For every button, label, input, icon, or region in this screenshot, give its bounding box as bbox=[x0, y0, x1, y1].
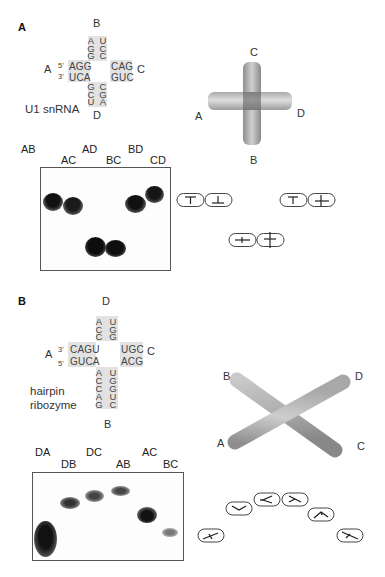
arm-label-a: A bbox=[45, 349, 52, 360]
lane-bc: BC bbox=[163, 458, 178, 470]
cross-pair-icon bbox=[228, 231, 288, 249]
model-label-c: C bbox=[250, 47, 258, 58]
right-strand-bottom: ACG bbox=[121, 357, 143, 366]
band-da bbox=[34, 521, 57, 557]
top-col-left: AGG bbox=[87, 37, 95, 60]
arm-label-c: C bbox=[147, 346, 155, 357]
arm-label-b: B bbox=[104, 419, 111, 430]
lane-dc: DC bbox=[86, 446, 102, 458]
square-cross-icon bbox=[205, 60, 335, 150]
right-strand-bottom: GUC bbox=[111, 73, 134, 82]
lane-ac: AC bbox=[142, 446, 157, 458]
lane-da: DA bbox=[35, 446, 50, 458]
band-ad bbox=[85, 237, 106, 257]
band-ab bbox=[111, 486, 130, 496]
x-stacked-model-icon bbox=[225, 370, 365, 460]
prime-5: 5' bbox=[58, 61, 64, 70]
bottom-col-right: CGA bbox=[99, 83, 107, 106]
gel-b-frame bbox=[32, 472, 184, 561]
band-cd bbox=[145, 186, 164, 203]
prime-3: 3' bbox=[58, 345, 64, 354]
t-shape-pair-icon bbox=[176, 192, 236, 208]
band-bc bbox=[162, 528, 178, 537]
less-than-pill-icon bbox=[253, 491, 283, 508]
model-label-b: B bbox=[223, 371, 230, 382]
bottom-col-left: ACCAG bbox=[95, 369, 103, 409]
lane-db: DB bbox=[61, 458, 76, 470]
v-shape-pill-icon bbox=[225, 500, 255, 517]
prime-5: 5' bbox=[58, 359, 64, 368]
model-label-a: A bbox=[195, 111, 202, 122]
u1-snrna-label: U1 snRNA bbox=[25, 104, 79, 115]
band-db bbox=[60, 497, 80, 509]
model-label-d: D bbox=[355, 371, 363, 382]
arm-label-d: D bbox=[93, 110, 101, 121]
band-ac bbox=[63, 197, 83, 215]
left-strand-top: CAGU bbox=[70, 345, 100, 354]
lane-ac: AC bbox=[61, 154, 76, 166]
left-strand-bottom: GUCA bbox=[70, 357, 100, 366]
prime-3: 3' bbox=[58, 72, 64, 81]
lane-bc: BC bbox=[106, 154, 121, 166]
diag-cross-right-pill-icon bbox=[336, 527, 366, 544]
arm-label-d: D bbox=[102, 296, 110, 307]
bottom-col-left: GCU bbox=[87, 83, 95, 106]
panel-a-letter: A bbox=[18, 21, 26, 33]
t-cross-pair-icon bbox=[279, 192, 339, 208]
band-bc bbox=[105, 240, 126, 257]
band-ab bbox=[43, 193, 63, 211]
model-label-d: D bbox=[297, 108, 305, 119]
model-label-c: C bbox=[357, 441, 365, 452]
band-dc bbox=[85, 490, 104, 502]
gel-a-frame bbox=[40, 167, 171, 271]
right-strand-top: CAG bbox=[111, 62, 133, 71]
lane-bd: BD bbox=[128, 143, 143, 155]
top-col-left: ACC bbox=[95, 318, 103, 341]
model-label-a: A bbox=[217, 438, 224, 449]
left-strand-top: AGG bbox=[69, 62, 92, 71]
top-col-right: UCC bbox=[99, 37, 107, 60]
bottom-col-right: UGGUC bbox=[109, 369, 117, 409]
top-col-right: UGG bbox=[109, 318, 117, 341]
band-ac bbox=[137, 507, 157, 523]
lane-ab: AB bbox=[116, 458, 131, 470]
right-strand-top: UGC bbox=[121, 345, 144, 354]
lane-cd: CD bbox=[150, 154, 166, 166]
arm-label-a: A bbox=[44, 64, 51, 75]
panel-b-letter: B bbox=[18, 295, 26, 307]
diag-cross-left-pill-icon bbox=[197, 527, 227, 544]
arm-label-c: C bbox=[137, 64, 145, 75]
model-label-b: B bbox=[250, 155, 257, 166]
band-bd bbox=[125, 195, 146, 213]
hairpin-label: hairpin bbox=[30, 386, 65, 397]
ribozyme-label: ribozyme bbox=[30, 400, 77, 411]
lane-ad: AD bbox=[82, 143, 97, 155]
lane-ab: AB bbox=[21, 143, 36, 155]
arm-label-b: B bbox=[93, 18, 100, 29]
caret-pill-icon bbox=[307, 506, 337, 523]
